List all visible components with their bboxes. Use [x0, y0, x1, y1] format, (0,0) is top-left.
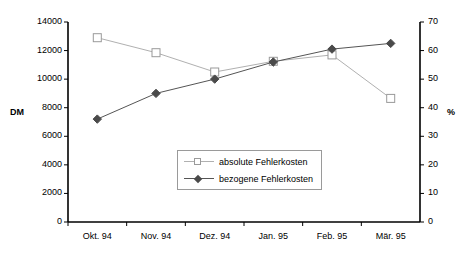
chart-legend: absolute Fehlerkosten bezogene Fehlerkos…	[177, 150, 322, 190]
plot-area	[0, 0, 465, 253]
chart-container: DM % 02000400060008000100001200014000010…	[0, 0, 465, 253]
legend-item-bezogene: bezogene Fehlerkosten	[184, 172, 313, 186]
legend-label: absolute Fehlerkosten	[219, 157, 308, 167]
axis-ticks	[64, 22, 424, 226]
legend-swatch-open-square-icon	[184, 156, 214, 168]
legend-item-absolute: absolute Fehlerkosten	[184, 155, 308, 169]
legend-swatch-filled-diamond-icon	[184, 173, 214, 185]
series-absolute	[93, 34, 394, 103]
data-series	[93, 34, 395, 124]
axis-lines	[68, 22, 420, 222]
series-bezogene	[93, 39, 395, 123]
legend-label: bezogene Fehlerkosten	[219, 174, 313, 184]
